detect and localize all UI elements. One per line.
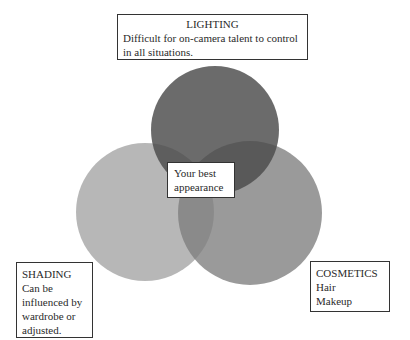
shading-desc-line-3: wardrobe or — [22, 309, 87, 323]
center-line-2: appearance — [174, 180, 228, 194]
cosmetics-item-makeup: Makeup — [316, 294, 384, 308]
center-line-1: Your best — [174, 166, 228, 180]
center-label-box: Your best appearance — [167, 162, 235, 198]
cosmetics-item-hair: Hair — [316, 280, 384, 294]
lighting-desc-line-2: in all situations. — [123, 45, 302, 59]
shading-desc-line-2: influenced by — [22, 295, 87, 309]
cosmetics-title: COSMETICS — [316, 266, 384, 280]
lighting-label-box: LIGHTING Difficult for on-camera talent … — [117, 14, 308, 60]
shading-desc-line-4: adjusted. — [22, 323, 87, 337]
shading-label-box: SHADING Can be influenced by wardrobe or… — [16, 262, 93, 338]
lighting-desc-line-1: Difficult for on-camera talent to contro… — [123, 31, 302, 45]
shading-title: SHADING — [22, 267, 87, 281]
shading-desc-line-1: Can be — [22, 281, 87, 295]
lighting-title: LIGHTING — [123, 17, 302, 31]
cosmetics-label-box: COSMETICS Hair Makeup — [310, 261, 390, 312]
